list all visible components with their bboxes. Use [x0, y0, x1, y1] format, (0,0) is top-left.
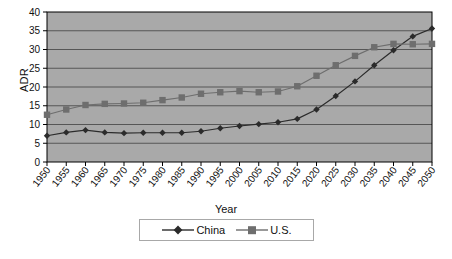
- svg-text:1950: 1950: [30, 164, 53, 189]
- legend-label-us: U.S.: [269, 224, 291, 236]
- data-point: [275, 88, 281, 94]
- data-point: [217, 89, 223, 95]
- legend-marker-diamond-icon: [161, 224, 195, 236]
- svg-text:5: 5: [34, 138, 40, 149]
- chart-legend: China U.S.: [139, 219, 314, 241]
- svg-text:1970: 1970: [107, 164, 130, 189]
- legend-marker-square-icon: [235, 224, 269, 236]
- data-point: [390, 41, 396, 47]
- data-point: [63, 106, 69, 112]
- data-point: [82, 102, 88, 108]
- svg-text:1995: 1995: [203, 164, 226, 189]
- svg-text:2030: 2030: [338, 164, 361, 189]
- data-point: [256, 89, 262, 95]
- y-axis-title: ADR: [18, 50, 30, 110]
- data-point: [294, 83, 300, 89]
- svg-text:2045: 2045: [396, 164, 419, 189]
- svg-text:10: 10: [29, 119, 41, 130]
- svg-text:2010: 2010: [261, 164, 284, 189]
- data-point: [352, 53, 358, 59]
- data-point: [429, 41, 435, 47]
- legend-item-china[interactable]: China: [161, 224, 225, 236]
- svg-text:1960: 1960: [69, 164, 92, 189]
- svg-text:2050: 2050: [415, 164, 438, 189]
- figure: 0510152025303540195019551960196519701975…: [0, 0, 452, 259]
- svg-text:35: 35: [29, 25, 41, 36]
- data-point: [179, 94, 185, 100]
- data-point: [236, 88, 242, 94]
- svg-text:2020: 2020: [300, 164, 323, 189]
- data-point: [44, 112, 50, 118]
- svg-text:0: 0: [34, 157, 40, 168]
- svg-text:1990: 1990: [184, 164, 207, 189]
- legend-item-us[interactable]: U.S.: [235, 224, 291, 236]
- data-point: [159, 97, 165, 103]
- data-point: [371, 44, 377, 50]
- data-point: [333, 62, 339, 68]
- data-point: [102, 101, 108, 107]
- svg-text:2025: 2025: [319, 164, 342, 189]
- svg-text:20: 20: [29, 82, 41, 93]
- svg-text:1975: 1975: [126, 164, 149, 189]
- data-point: [140, 100, 146, 106]
- legend-label-china: China: [195, 224, 225, 236]
- svg-text:2015: 2015: [280, 164, 303, 189]
- svg-text:2040: 2040: [377, 164, 400, 189]
- data-point: [313, 73, 319, 79]
- data-point: [410, 41, 416, 47]
- chart-plot-area: 0510152025303540195019551960196519701975…: [0, 0, 452, 205]
- data-point: [121, 100, 127, 106]
- svg-text:1965: 1965: [88, 164, 111, 189]
- svg-text:2035: 2035: [357, 164, 380, 189]
- svg-text:2005: 2005: [242, 164, 265, 189]
- data-point: [198, 91, 204, 97]
- svg-text:1980: 1980: [146, 164, 169, 189]
- svg-text:15: 15: [29, 100, 41, 111]
- svg-text:1985: 1985: [165, 164, 188, 189]
- x-axis-title: Year: [0, 203, 452, 215]
- svg-text:30: 30: [29, 44, 41, 55]
- line-chart: 0510152025303540195019551960196519701975…: [0, 0, 452, 205]
- svg-text:40: 40: [29, 7, 41, 18]
- svg-text:1955: 1955: [49, 164, 72, 189]
- svg-text:2000: 2000: [223, 164, 246, 189]
- svg-text:25: 25: [29, 63, 41, 74]
